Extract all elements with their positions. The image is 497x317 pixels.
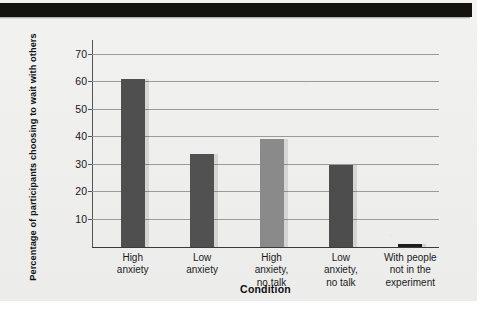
y-tick-mark [88,164,92,165]
bar-4 [329,165,353,246]
y-axis-line [92,40,93,248]
y-axis-title: Percentage of participants choosing to w… [22,59,46,254]
y-tick-mark [88,191,92,192]
bar-3 [260,139,284,246]
gridline [92,54,439,55]
bar-2 [190,154,214,246]
y-tick-label: 40 [75,130,87,142]
y-axis-title-text: Percentage of participants choosing to w… [28,33,40,280]
y-tick-mark [88,109,92,110]
y-tick-mark [88,136,92,137]
bar-5 [398,244,422,247]
y-tick-label: 30 [75,158,87,170]
y-tick-label: 60 [75,75,87,87]
x-axis-title: Condition [92,283,439,295]
y-tick-mark [88,81,92,82]
bar-chart: Percentage of participants choosing to w… [0,19,477,301]
y-tick-label: 20 [75,185,87,197]
x-tick-label-line: not in the [370,264,451,276]
y-tick-mark [88,219,92,220]
plot-area: 10203040506070 HighanxietyLowanxietyHigh… [92,40,439,248]
figure-page: Percentage of participants choosing to w… [0,0,497,317]
y-tick-label: 50 [75,103,87,115]
top-black-banner [0,3,472,17]
y-tick-label: 10 [75,213,87,225]
bar-1 [121,79,145,247]
y-tick-mark [88,54,92,55]
x-tick-label-line: With people [370,252,451,264]
x-axis-line [92,247,439,249]
y-tick-label: 70 [75,48,87,60]
